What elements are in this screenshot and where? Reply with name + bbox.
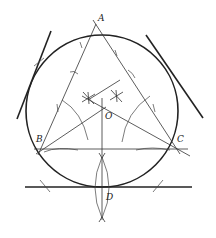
tick-bottom-left	[40, 180, 50, 192]
star-mark-right	[110, 90, 123, 102]
tangent-line-right	[146, 35, 203, 118]
arc-10	[153, 104, 155, 112]
label-b: B	[35, 134, 43, 144]
label-a: A	[97, 13, 105, 23]
side-ac	[93, 20, 180, 154]
label-c: C	[177, 134, 184, 144]
tick-bottom-right	[153, 180, 163, 192]
arc-5	[80, 42, 82, 48]
tangent-line-left	[17, 31, 51, 119]
line-oc	[82, 96, 190, 156]
label-d: D	[105, 192, 113, 202]
label-o: O	[105, 111, 113, 121]
arc-2	[122, 96, 150, 142]
geometry-diagram: A O B C D	[0, 0, 216, 238]
line-bo	[36, 107, 106, 154]
arc-8	[128, 70, 135, 78]
